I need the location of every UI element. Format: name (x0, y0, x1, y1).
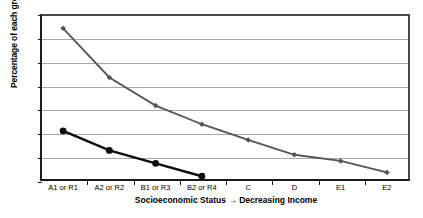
series-layer (0, 0, 423, 218)
data-point-marker (338, 158, 344, 164)
series-line (63, 131, 202, 176)
data-point-marker (198, 173, 205, 180)
data-point-marker (384, 170, 390, 176)
data-point-marker (245, 137, 251, 143)
data-point-marker (199, 121, 205, 127)
data-point-marker (60, 127, 67, 134)
x-axis-title: Socioeconomic Status → Decreasing Income (40, 195, 412, 205)
data-point-marker (106, 147, 113, 154)
data-point-marker (152, 160, 159, 167)
chart-figure: Percentage of each group 05101520253035 … (0, 0, 423, 218)
data-point-marker (292, 152, 298, 158)
